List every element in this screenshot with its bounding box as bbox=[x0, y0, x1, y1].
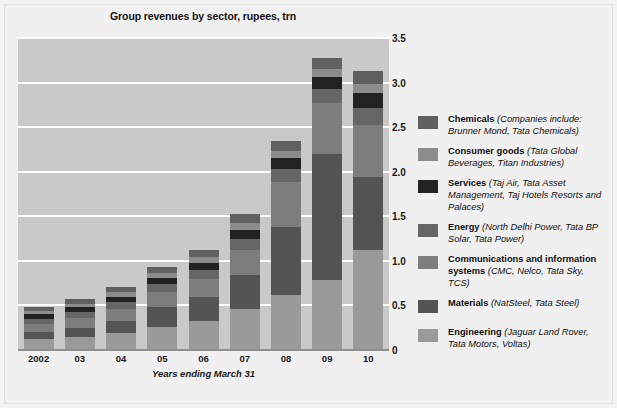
bar-segment[interactable] bbox=[312, 69, 342, 77]
legend-label: Services (Taj Air, Tata Asset Management… bbox=[448, 178, 608, 213]
legend-label: Communications and information systems (… bbox=[448, 254, 608, 289]
bar-segment[interactable] bbox=[106, 302, 136, 309]
bar-segment[interactable] bbox=[353, 108, 383, 126]
bar-segment[interactable] bbox=[271, 182, 301, 227]
y-axis-tick-label: 1.0 bbox=[392, 255, 406, 266]
legend-series-name: Chemicals bbox=[448, 114, 495, 124]
bar-segment[interactable] bbox=[271, 151, 301, 158]
bar-segment[interactable] bbox=[312, 77, 342, 89]
y-axis-tick-label: 1.5 bbox=[392, 211, 406, 222]
y-axis-tick-label: 3.5 bbox=[392, 33, 406, 44]
bar-segment[interactable] bbox=[147, 327, 177, 350]
legend-swatch bbox=[418, 180, 438, 193]
bar-segment[interactable] bbox=[353, 93, 383, 107]
legend-item[interactable]: Consumer goods (Tata Global Beverages, T… bbox=[418, 146, 608, 169]
gridline bbox=[18, 37, 389, 39]
bar-segment[interactable] bbox=[230, 239, 260, 251]
bar-segment[interactable] bbox=[65, 337, 95, 350]
bar-column[interactable] bbox=[312, 58, 342, 350]
bar-segment[interactable] bbox=[230, 250, 260, 275]
bar-segment[interactable] bbox=[353, 177, 383, 250]
bar-column[interactable] bbox=[147, 267, 177, 350]
x-axis-tick-label: 03 bbox=[57, 353, 103, 364]
bar-segment[interactable] bbox=[147, 292, 177, 307]
chart-figure: Group revenues by sector, rupees, trn Ye… bbox=[0, 0, 617, 408]
legend-swatch bbox=[418, 329, 438, 342]
x-axis-line bbox=[18, 349, 389, 351]
bar-segment[interactable] bbox=[312, 154, 342, 281]
bar-segment[interactable] bbox=[230, 309, 260, 350]
x-axis-tick-label: 04 bbox=[98, 353, 144, 364]
bar-segment[interactable] bbox=[230, 275, 260, 309]
legend-series-name: Materials bbox=[448, 298, 488, 308]
bar-segment[interactable] bbox=[312, 103, 342, 154]
bar-segment[interactable] bbox=[189, 263, 219, 270]
x-axis-tick-label: 10 bbox=[345, 353, 391, 364]
x-axis-tick-label: 05 bbox=[139, 353, 185, 364]
legend-item[interactable]: Engineering (Jaguar Land Rover, Tata Mot… bbox=[418, 327, 608, 350]
bar-segment[interactable] bbox=[230, 230, 260, 239]
x-axis-tick-label: 08 bbox=[263, 353, 309, 364]
bar-segment[interactable] bbox=[189, 270, 219, 279]
legend-swatch bbox=[418, 148, 438, 161]
legend-swatch bbox=[418, 116, 438, 129]
y-axis-tick-label: 2.0 bbox=[392, 166, 406, 177]
bar-segment[interactable] bbox=[271, 295, 301, 350]
bar-segment[interactable] bbox=[312, 58, 342, 70]
bar-segment[interactable] bbox=[353, 250, 383, 350]
legend-item[interactable]: Chemicals (Companies include: Brunner Mo… bbox=[418, 114, 608, 137]
plot-area bbox=[18, 38, 389, 350]
bar-segment[interactable] bbox=[271, 141, 301, 152]
bar-segment[interactable] bbox=[147, 284, 177, 292]
legend-swatch bbox=[418, 300, 438, 313]
bar-column[interactable] bbox=[271, 141, 301, 350]
bar-segment[interactable] bbox=[271, 169, 301, 182]
bar-segment[interactable] bbox=[24, 324, 54, 332]
bar-segment[interactable] bbox=[65, 328, 95, 337]
bar-column[interactable] bbox=[230, 214, 260, 350]
bar-column[interactable] bbox=[189, 250, 219, 350]
bar-segment[interactable] bbox=[353, 125, 383, 177]
bar-segment[interactable] bbox=[230, 214, 260, 224]
x-axis-tick-label: 07 bbox=[222, 353, 268, 364]
legend-series-name: Consumer goods bbox=[448, 146, 524, 156]
bar-segment[interactable] bbox=[271, 158, 301, 169]
bar-segment[interactable] bbox=[312, 89, 342, 103]
bar-segment[interactable] bbox=[106, 309, 136, 321]
bar-segment[interactable] bbox=[353, 84, 383, 94]
legend-item[interactable]: Materials (NatSteel, Tata Steel) bbox=[418, 298, 608, 318]
page-title: Group revenues by sector, rupees, trn bbox=[18, 10, 388, 22]
legend-swatch bbox=[418, 256, 438, 269]
legend-label: Energy (North Delhi Power, Tata BP Solar… bbox=[448, 222, 608, 245]
y-axis-tick-label: 3.0 bbox=[392, 77, 406, 88]
bar-column[interactable] bbox=[24, 307, 54, 350]
bar-segment[interactable] bbox=[106, 333, 136, 350]
bar-segment[interactable] bbox=[353, 71, 383, 83]
x-axis-title: Years ending March 31 bbox=[18, 368, 389, 379]
y-axis-tick-label: 2.5 bbox=[392, 122, 406, 133]
bar-segment[interactable] bbox=[106, 321, 136, 333]
bar-segment[interactable] bbox=[189, 279, 219, 298]
legend-item[interactable]: Energy (North Delhi Power, Tata BP Solar… bbox=[418, 222, 608, 245]
bar-column[interactable] bbox=[65, 299, 95, 350]
bar-column[interactable] bbox=[106, 287, 136, 350]
bar-segment[interactable] bbox=[271, 227, 301, 295]
legend-label: Engineering (Jaguar Land Rover, Tata Mot… bbox=[448, 327, 608, 350]
x-axis-tick-label: 09 bbox=[304, 353, 350, 364]
legend-item[interactable]: Services (Taj Air, Tata Asset Management… bbox=[418, 178, 608, 213]
bar-segment[interactable] bbox=[65, 318, 95, 328]
legend-label: Chemicals (Companies include: Brunner Mo… bbox=[448, 114, 608, 137]
x-axis-tick-label: 2002 bbox=[16, 353, 62, 364]
bar-segment[interactable] bbox=[189, 250, 219, 257]
bar-segment[interactable] bbox=[24, 332, 54, 339]
bar-segment[interactable] bbox=[189, 321, 219, 350]
bar-column[interactable] bbox=[353, 71, 383, 350]
legend-item[interactable]: Communications and information systems (… bbox=[418, 254, 608, 289]
legend-label: Materials (NatSteel, Tata Steel) bbox=[448, 298, 608, 310]
legend-series-name: Engineering bbox=[448, 327, 502, 337]
bar-segment[interactable] bbox=[147, 307, 177, 327]
legend-series-description: (NatSteel, Tata Steel) bbox=[488, 298, 579, 308]
bar-segment[interactable] bbox=[189, 297, 219, 320]
legend-swatch bbox=[418, 224, 438, 237]
bar-segment[interactable] bbox=[312, 280, 342, 350]
